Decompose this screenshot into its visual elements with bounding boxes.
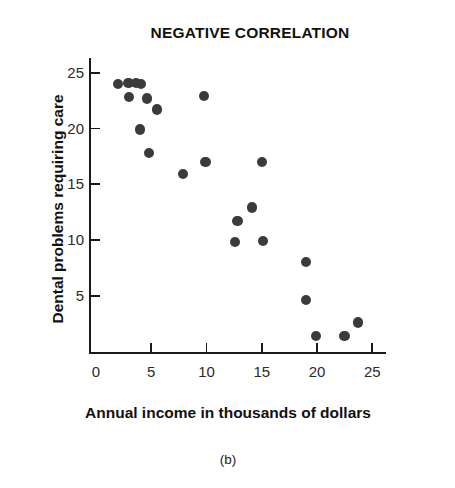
scatter-point <box>199 91 209 101</box>
x-tick-label: 15 <box>242 363 282 380</box>
x-tick-label: 20 <box>297 363 337 380</box>
scatter-point <box>311 331 321 341</box>
y-tick-mark <box>91 72 100 74</box>
y-tick-mark <box>91 183 100 185</box>
scatter-point <box>247 202 257 212</box>
y-tick-label: 5 <box>44 287 84 304</box>
scatter-point <box>353 317 363 327</box>
y-tick-mark <box>91 239 100 241</box>
y-tick-mark <box>91 128 100 130</box>
scatter-point <box>258 236 268 246</box>
scatter-point <box>136 79 146 89</box>
x-tick-mark <box>261 343 263 352</box>
x-tick-mark <box>371 343 373 352</box>
y-tick-label: 10 <box>44 231 84 248</box>
x-tick-mark <box>150 343 152 352</box>
figure-caption: (b) <box>28 452 428 467</box>
scatter-point <box>124 92 134 102</box>
y-axis-line <box>89 58 91 354</box>
scatter-point <box>135 124 145 134</box>
scatter-point <box>113 79 123 89</box>
x-tick-label: 10 <box>187 363 227 380</box>
scatter-point <box>232 216 242 226</box>
y-tick-label: 20 <box>44 120 84 137</box>
scatter-point <box>230 237 240 247</box>
x-tick-label: 5 <box>131 363 171 380</box>
x-tick-label: 25 <box>352 363 392 380</box>
scatter-point <box>301 257 311 267</box>
scatter-point <box>152 104 162 114</box>
x-tick-label: 0 <box>76 363 116 380</box>
figure-panel-b: NEGATIVE CORRELATION Dental problems req… <box>0 0 455 488</box>
x-tick-mark <box>206 343 208 352</box>
x-axis-line <box>89 352 386 354</box>
y-tick-mark <box>91 295 100 297</box>
x-tick-mark <box>316 343 318 352</box>
y-tick-label: 25 <box>44 64 84 81</box>
scatter-point <box>339 331 349 341</box>
scatter-point <box>200 157 210 167</box>
scatter-point <box>142 93 152 103</box>
x-axis-label: Annual income in thousands of dollars <box>28 404 428 422</box>
scatter-point <box>301 295 311 305</box>
scatter-point <box>257 157 267 167</box>
scatter-point <box>178 169 188 179</box>
y-tick-label: 15 <box>44 175 84 192</box>
scatter-point <box>144 148 154 158</box>
